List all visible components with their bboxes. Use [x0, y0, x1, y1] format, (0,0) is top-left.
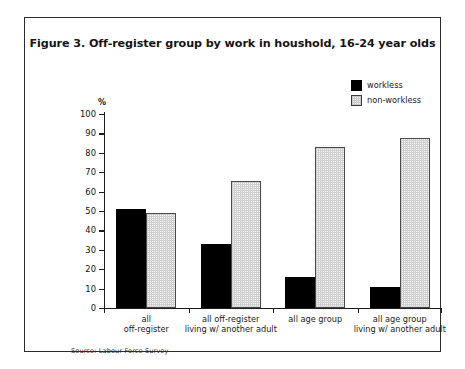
bar-workless-group-3	[285, 277, 315, 308]
figure-title: Figure 3. Off-register group by work in …	[25, 37, 440, 50]
bar-non-workless-group-2	[231, 181, 261, 308]
y-axis-line	[104, 112, 105, 308]
chart-legend: workless non-workless	[351, 79, 461, 109]
bar-workless-group-2	[201, 244, 231, 308]
x-label-line: all age group	[344, 314, 457, 324]
legend-swatch-workless-icon	[351, 80, 362, 91]
y-tick-50	[99, 211, 104, 212]
y-tick-label-100: 100	[80, 109, 96, 119]
legend-label-non-workless: non-workless	[367, 95, 421, 105]
bar-non-workless-group-3	[315, 147, 345, 308]
x-tick-3	[273, 308, 274, 313]
y-tick-60	[99, 192, 104, 193]
y-tick-90	[99, 133, 104, 134]
x-tick-end	[441, 308, 442, 313]
legend-item-workless: workless	[351, 79, 461, 91]
y-tick-40	[99, 230, 104, 231]
y-tick-label-60: 60	[85, 187, 96, 197]
y-axis-unit-label: %	[98, 98, 106, 107]
legend-item-non-workless: non-workless	[351, 94, 461, 106]
x-label-line: living w/ another adult	[175, 324, 288, 334]
y-tick-10	[99, 289, 104, 290]
y-tick-30	[99, 250, 104, 251]
legend-label-workless: workless	[367, 80, 403, 90]
x-tick-2	[189, 308, 190, 313]
y-tick-label-70: 70	[85, 167, 96, 177]
y-tick-label-50: 50	[85, 206, 96, 216]
y-tick-label-30: 30	[85, 245, 96, 255]
bar-workless-group-4	[370, 287, 400, 308]
bar-workless-group-1	[116, 209, 146, 308]
y-tick-label-10: 10	[85, 284, 96, 294]
y-tick-80	[99, 153, 104, 154]
y-tick-label-40: 40	[85, 225, 96, 235]
bar-non-workless-group-1	[146, 213, 176, 308]
bar-non-workless-group-4	[400, 138, 430, 308]
y-tick-label-20: 20	[85, 264, 96, 274]
x-axis-label-group-4: all age groupliving w/ another adult	[344, 314, 457, 334]
y-tick-label-90: 90	[85, 128, 96, 138]
y-tick-100	[99, 114, 104, 115]
plot-area: % 0102030405060708090100 alloff-register…	[104, 114, 442, 308]
figure-frame: Figure 3. Off-register group by work in …	[24, 17, 441, 352]
x-tick-1	[104, 308, 105, 313]
x-tick-4	[358, 308, 359, 313]
source-note: Source: Labour Force Survey	[71, 347, 168, 355]
y-tick-70	[99, 172, 104, 173]
y-tick-label-80: 80	[85, 148, 96, 158]
legend-swatch-non-workless-icon	[351, 95, 362, 106]
y-tick-20	[99, 269, 104, 270]
y-tick-label-0: 0	[91, 303, 96, 313]
x-label-line: living w/ another adult	[344, 324, 457, 334]
